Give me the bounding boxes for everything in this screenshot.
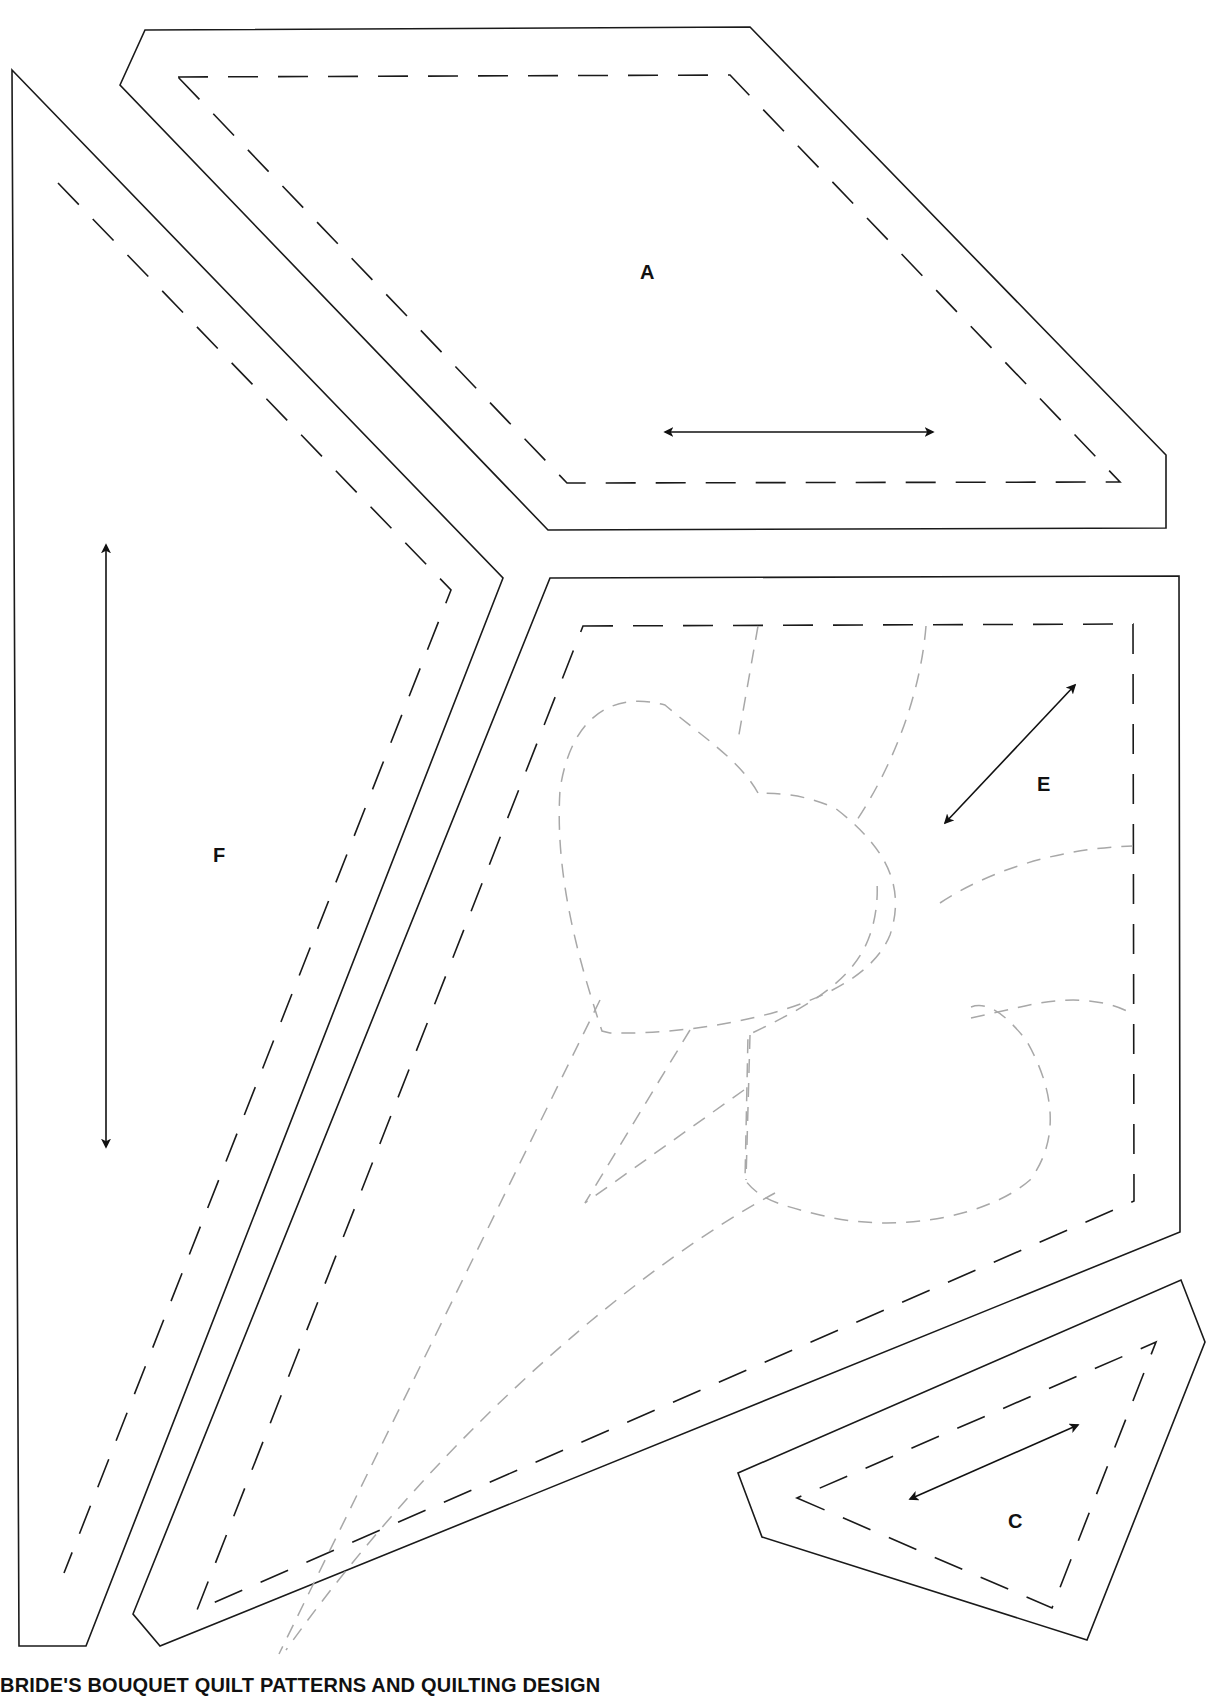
pattern-sheet xyxy=(0,0,1218,1696)
quilting-line xyxy=(857,626,926,820)
piece-label-e: E xyxy=(1037,774,1050,794)
piece-e xyxy=(133,576,1180,1654)
piece-label-c: C xyxy=(1008,1511,1022,1531)
piece-e-cut-line xyxy=(133,576,1180,1646)
piece-f-cut-line xyxy=(12,70,503,1646)
quilting-design xyxy=(279,626,1133,1654)
quilting-line xyxy=(585,1030,690,1203)
quilting-line xyxy=(746,1035,750,1180)
piece-c xyxy=(738,1280,1205,1640)
piece-e-grain-arrow-icon xyxy=(945,685,1075,823)
piece-label-a: A xyxy=(640,262,654,282)
piece-f xyxy=(12,70,503,1646)
piece-c-seam-line xyxy=(797,1342,1156,1608)
quilting-line xyxy=(585,1090,744,1203)
quilting-heart-lower xyxy=(745,882,1050,1223)
quilting-line xyxy=(738,626,758,740)
quilting-heart-upper xyxy=(559,701,895,1033)
piece-c-cut-line xyxy=(738,1280,1205,1640)
page-caption: BRIDE'S BOUQUET QUILT PATTERNS AND QUILT… xyxy=(0,1674,600,1696)
quilting-lines xyxy=(279,626,1133,1654)
quilting-line xyxy=(940,846,1133,903)
quilting-line xyxy=(286,1193,775,1650)
piece-label-f: F xyxy=(213,845,225,865)
piece-f-seam-line xyxy=(58,183,451,1573)
quilting-line xyxy=(971,1000,1133,1018)
quilting-line xyxy=(279,1000,600,1654)
piece-c-grain-arrow-icon xyxy=(910,1425,1078,1499)
